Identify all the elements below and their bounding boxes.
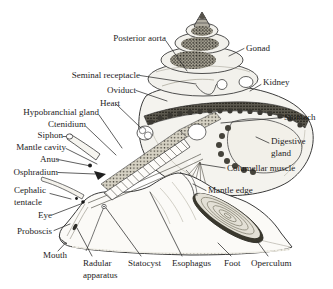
label-operculum: Operculum <box>251 258 297 270</box>
label-gonad: Gonad <box>246 43 286 55</box>
leader-hypobranchial-gland <box>99 115 122 148</box>
gonad-stipple-lower <box>170 51 216 69</box>
label-mouth: Mouth <box>43 250 71 262</box>
label-oviduct: Oviduct <box>94 85 136 97</box>
label-osphradium: Osphradium <box>10 167 58 179</box>
label-eye: Eye <box>34 210 52 222</box>
label-radular-apparatus: Radular apparatus <box>83 258 129 281</box>
label-cephalic-tentacle: Cephalic tentacle <box>14 185 56 208</box>
gonad-stipple-upper <box>191 26 213 36</box>
label-hypobranchial-gland: Hypobranchial gland <box>10 107 99 119</box>
label-esophagus: Esophagus <box>172 258 216 270</box>
label-mantle-cavity: Mantle cavity <box>10 142 66 154</box>
gonad-stipple-mid <box>181 37 219 51</box>
label-mantle-edge: Mantle edge <box>208 185 264 197</box>
label-kidney: Kidney <box>263 77 298 89</box>
anus-shape <box>88 164 92 168</box>
label-digestive-gland: Digestive gland <box>271 136 317 159</box>
label-foot: Foot <box>224 258 248 270</box>
tentacle-base-dot <box>75 197 78 200</box>
kidney-shape <box>239 77 253 88</box>
snail-anatomy-diagram: Posterior aorta Gonad Seminal receptacle… <box>0 0 333 289</box>
label-statocyst: Statocyst <box>128 258 168 270</box>
label-columellar-muscle: Columellar muscle <box>227 163 322 175</box>
label-anus: Anus <box>34 154 59 166</box>
label-proboscis: Proboscis <box>17 226 57 238</box>
leader-osphradium <box>58 173 95 175</box>
label-stomach: Stomach <box>284 112 324 124</box>
siphon-opening <box>66 134 72 139</box>
label-seminal-receptacle: Seminal receptacle <box>62 70 140 82</box>
label-posterior-aorta: Posterior aorta <box>104 33 166 45</box>
siphon-shape <box>66 134 100 160</box>
label-ctenidium: Ctenidium <box>42 119 86 131</box>
label-siphon: Siphon <box>34 130 63 142</box>
osphradium-shape <box>94 171 106 180</box>
leader-anus <box>58 160 88 166</box>
